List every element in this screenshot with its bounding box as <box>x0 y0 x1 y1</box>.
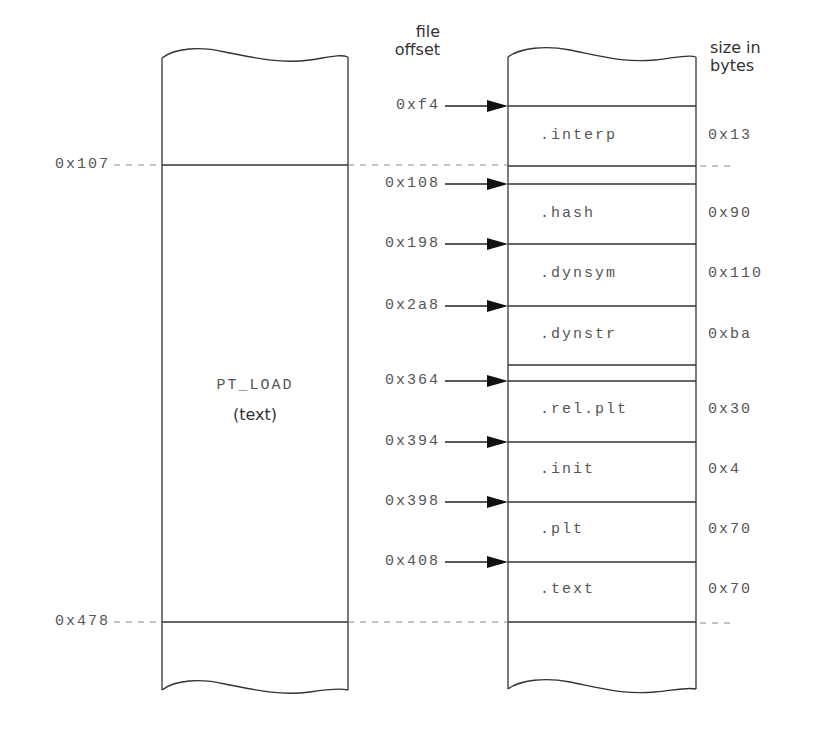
arrow-icon <box>445 496 508 508</box>
section-name: .interp <box>540 127 617 144</box>
offset-label: 0x364 <box>340 372 440 389</box>
arrow-icon <box>445 178 508 190</box>
file-offset-header-line1: file <box>380 23 440 41</box>
arrow-icon <box>445 556 508 568</box>
size-header-line1: size in <box>710 39 761 57</box>
offset-label: 0x394 <box>340 433 440 450</box>
sections-column <box>508 48 696 693</box>
arrow-icon <box>445 436 508 448</box>
size-header-line2: bytes <box>710 57 761 75</box>
file-offset-header: file offset <box>380 23 440 59</box>
section-size: 0x30 <box>708 401 752 418</box>
segment-column <box>162 49 348 694</box>
arrow-icon <box>445 238 508 250</box>
section-size: 0x70 <box>708 581 752 598</box>
section-name: .init <box>540 461 595 478</box>
offset-label: 0xf4 <box>340 97 440 114</box>
section-name: .text <box>540 581 595 598</box>
section-size: 0x70 <box>708 521 752 538</box>
offset-label: 0x2a8 <box>340 297 440 314</box>
segment-type: (text) <box>162 405 348 424</box>
section-name: .dynstr <box>540 326 617 343</box>
segment-name: PT_LOAD <box>162 377 348 394</box>
arrow-icon <box>445 300 508 312</box>
offset-arrows <box>445 100 508 568</box>
section-size: 0x13 <box>708 127 752 144</box>
section-size: 0xba <box>708 326 752 343</box>
offset-label: 0x108 <box>340 175 440 192</box>
section-name: .dynsym <box>540 265 617 282</box>
segment-end-label: 0x478 <box>20 613 110 630</box>
section-name: .hash <box>540 205 595 222</box>
section-name: .rel.plt <box>540 401 628 418</box>
size-in-bytes-header: size in bytes <box>710 39 761 75</box>
section-size: 0x90 <box>708 205 752 222</box>
section-size: 0x110 <box>708 265 763 282</box>
segment-start-label: 0x107 <box>20 156 110 173</box>
offset-label: 0x408 <box>340 553 440 570</box>
section-name: .plt <box>540 521 584 538</box>
section-size: 0x4 <box>708 461 741 478</box>
offset-label: 0x398 <box>340 493 440 510</box>
arrow-icon <box>445 100 508 112</box>
offset-label: 0x198 <box>340 235 440 252</box>
file-offset-header-line2: offset <box>380 41 440 59</box>
arrow-icon <box>445 375 508 387</box>
